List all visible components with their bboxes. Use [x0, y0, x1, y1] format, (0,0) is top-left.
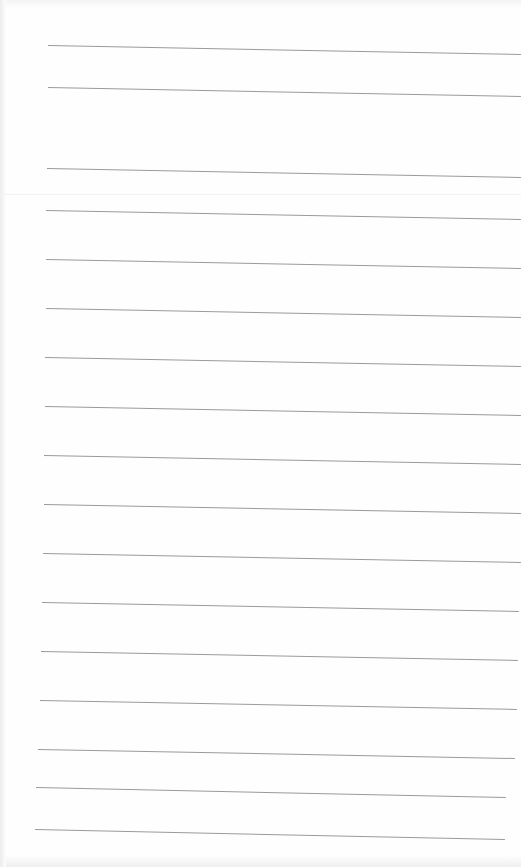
paper-crease: [0, 194, 521, 195]
lined-paper: [0, 0, 521, 867]
paper-edge-shadow: [0, 0, 6, 867]
